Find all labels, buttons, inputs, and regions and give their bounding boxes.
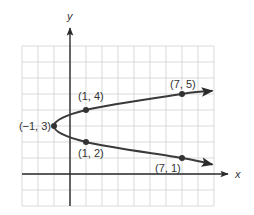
y-axis-label: y	[66, 10, 74, 22]
point-label: (7, 1)	[155, 162, 181, 174]
data-point	[83, 107, 89, 113]
point-label: (7, 5)	[170, 78, 196, 90]
data-point	[179, 155, 185, 161]
graph: x y (7, 5)(1, 4)(−1, 3)(1, 2)(7, 1)	[0, 0, 254, 215]
point-label: (1, 4)	[78, 90, 104, 102]
data-point	[179, 91, 185, 97]
data-point	[51, 123, 57, 129]
point-label: (1, 2)	[78, 147, 104, 159]
point-label: (−1, 3)	[19, 120, 51, 132]
data-point	[83, 139, 89, 145]
x-axis-label: x	[234, 168, 241, 180]
